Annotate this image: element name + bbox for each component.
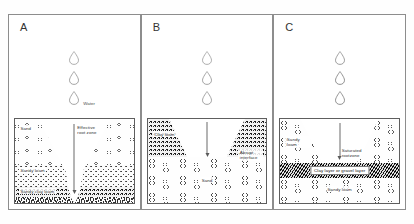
soil-wetting-pattern-figure: A Water xyxy=(0,0,414,224)
water-label: Water xyxy=(83,101,95,106)
label-sand: Sand xyxy=(19,125,33,131)
panel-a-water-drops: Water xyxy=(9,49,140,119)
label-abrupt-interface: Abrupt interface xyxy=(238,149,263,161)
panel-c-letter: C xyxy=(285,21,293,33)
water-drop-icon xyxy=(202,91,213,105)
label-sand: Sand xyxy=(200,177,214,183)
panel-c-soil-profile: Sandy loam Saturated rootzone Clay layer… xyxy=(279,118,400,204)
panel-b-soil-profile: Clay loam Abrupt interface Sand xyxy=(147,118,268,204)
label-effective-root-zone: Effective root zone xyxy=(77,125,103,135)
panel-b-letter: B xyxy=(153,21,161,33)
label-sandy-loam-bottom: Sandy loam xyxy=(326,186,353,192)
down-arrow-icon xyxy=(339,123,340,156)
label-sandy-clay-loam: Sandy clay loam xyxy=(19,188,56,194)
panel-c: C Sandy loam Saturated roo xyxy=(273,14,406,210)
water-drop-icon xyxy=(69,71,80,85)
label-sandy-loam-top: Sandy loam xyxy=(285,136,310,148)
water-drop-icon xyxy=(334,51,345,65)
down-arrow-icon xyxy=(74,124,75,190)
label-sandy-loam: Sandy loam xyxy=(19,167,46,173)
water-drop-icon xyxy=(334,71,345,85)
water-drop-icon xyxy=(69,51,80,65)
label-clay-or-gravel-layer: Clay layer or gravel layer xyxy=(310,166,369,175)
water-drop-icon xyxy=(202,71,213,85)
down-arrow-icon xyxy=(207,122,208,153)
water-drop-icon xyxy=(334,91,345,105)
label-clay-loam: Clay loam xyxy=(153,131,178,137)
panel-c-water-drops xyxy=(274,49,405,119)
panel-a-letter: A xyxy=(20,21,28,33)
panel-a-soil-profile: Sand Sandy loam Sandy clay loam Effectiv… xyxy=(14,118,135,204)
panel-row: A Water xyxy=(8,14,406,210)
water-drop-icon xyxy=(69,91,80,105)
panel-a: A Water xyxy=(8,14,141,210)
panel-b-water-drops xyxy=(142,49,273,119)
label-saturated-rootzone: Saturated rootzone xyxy=(342,148,368,158)
water-drop-icon xyxy=(202,51,213,65)
panel-b: B Clay loam Abrupt interface xyxy=(141,14,274,210)
